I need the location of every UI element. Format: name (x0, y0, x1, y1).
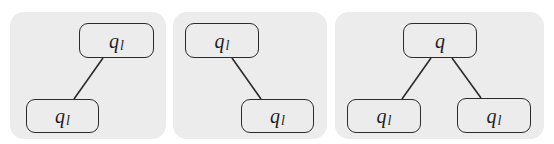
diagram-panel-1: qlql (10, 12, 166, 139)
node-label-base: q (487, 105, 497, 127)
node-label-base: q (55, 105, 65, 127)
node-label-subscript: l (66, 113, 70, 128)
node-label-subscript: l (388, 113, 392, 128)
tree-node: ql (241, 99, 314, 133)
node-label: ql (487, 106, 502, 126)
node-label-subscript: l (226, 38, 230, 53)
node-label-base: q (270, 105, 280, 127)
node-label-base: q (377, 105, 387, 127)
node-label-base: q (435, 30, 445, 52)
tree-edge (402, 58, 431, 99)
node-label-subscript: l (281, 113, 285, 128)
tree-edge (232, 58, 261, 99)
node-label: ql (109, 31, 124, 51)
tree-node: ql (347, 99, 421, 133)
node-label-subscript: l (120, 38, 124, 53)
tree-edge (452, 58, 481, 98)
node-label: ql (55, 106, 70, 126)
tree-node: ql (457, 98, 531, 133)
node-label: q (435, 31, 445, 51)
node-label-subscript: l (498, 113, 502, 128)
node-label: ql (377, 106, 392, 126)
diagram-panel-2: qlql (173, 12, 327, 139)
tree-node: ql (26, 99, 99, 133)
node-label: ql (215, 31, 230, 51)
tree-node: q (403, 23, 477, 58)
diagram-panel-3: qqlql (335, 12, 544, 139)
node-label: ql (270, 106, 285, 126)
node-label-base: q (109, 30, 119, 52)
node-label-base: q (215, 30, 225, 52)
tree-edge (74, 58, 103, 99)
tree-node: ql (185, 23, 259, 58)
tree-node: ql (79, 23, 154, 58)
